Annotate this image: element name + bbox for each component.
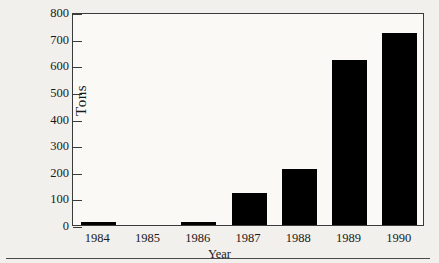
bar <box>332 60 367 225</box>
y-tick-label: 100 <box>50 192 69 207</box>
plot-area: Tons 0100200300400500600700800 <box>72 13 424 226</box>
bar <box>232 193 267 225</box>
y-tick-label: 400 <box>50 113 69 128</box>
y-tick-label: 700 <box>50 33 69 48</box>
x-axis-title: Year <box>0 247 439 262</box>
footer-rule <box>6 258 430 259</box>
y-tick-label: 800 <box>50 6 69 21</box>
y-tick-label: 200 <box>50 166 69 181</box>
y-tick-mark <box>73 227 82 228</box>
bar-series <box>73 14 423 225</box>
y-tick-label: 600 <box>50 59 69 74</box>
y-tick-label: 500 <box>50 86 69 101</box>
bar-chart-figure: Tons 0100200300400500600700800 198419851… <box>0 0 439 263</box>
x-tick-label: 1990 <box>369 231 429 246</box>
bar <box>81 222 116 225</box>
bar <box>382 33 417 225</box>
bar <box>181 222 216 225</box>
bar <box>282 169 317 225</box>
y-tick-label: 300 <box>50 139 69 154</box>
